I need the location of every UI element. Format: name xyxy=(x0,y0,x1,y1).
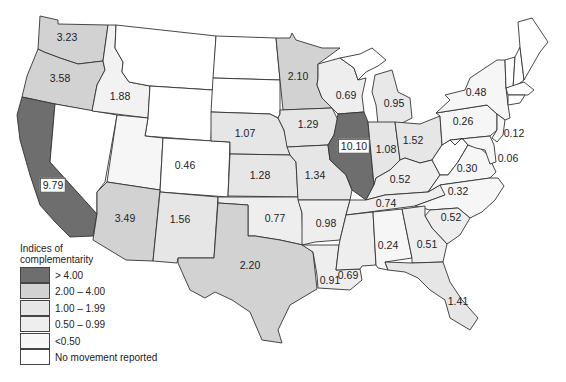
label-oklahoma: 0.77 xyxy=(265,213,285,224)
label-wisconsin: 0.69 xyxy=(336,90,356,101)
state-maine xyxy=(518,18,548,80)
label-michigan: 0.95 xyxy=(384,98,404,109)
label-new-jersey: 0.12 xyxy=(504,128,524,139)
legend-label-none: No movement reported xyxy=(55,352,157,363)
legend-swatch-none xyxy=(20,349,50,365)
label-arkansas: 0.98 xyxy=(316,218,336,229)
label-kansas: 1.28 xyxy=(250,170,270,181)
legend-swatch-gt4 xyxy=(20,267,50,283)
legend-swatch-05-1 xyxy=(20,316,50,332)
label-delaware-maryland: 0.06 xyxy=(498,153,518,164)
label-idaho: 1.88 xyxy=(110,91,130,102)
state-montana xyxy=(115,25,216,90)
legend-row-lt05: <0.50 xyxy=(20,333,157,350)
label-mississippi: 0.69 xyxy=(338,270,358,281)
label-texas: 2.20 xyxy=(240,260,260,271)
label-ohio: 1.52 xyxy=(403,135,423,146)
label-south-carolina: 0.52 xyxy=(441,212,461,223)
label-indiana: 1.08 xyxy=(376,144,396,155)
label-washington: 3.23 xyxy=(57,32,77,43)
legend-label-05-1: 0.50 – 0.99 xyxy=(55,319,105,330)
label-missouri: 1.34 xyxy=(305,170,325,181)
legend-label-1-2: 1.00 – 1.99 xyxy=(55,303,105,314)
label-illinois: 10.10 xyxy=(338,139,370,154)
label-kentucky: 0.52 xyxy=(390,174,410,185)
label-arizona: 3.49 xyxy=(115,213,135,224)
label-iowa: 1.29 xyxy=(298,119,318,130)
state-north-dakota xyxy=(213,36,280,80)
state-connecticut xyxy=(508,95,525,105)
label-california: 9.79 xyxy=(40,178,66,193)
legend-label-lt05: <0.50 xyxy=(55,336,80,347)
legend-title-line1: Indices of xyxy=(20,243,157,254)
label-utah: 0.46 xyxy=(175,160,195,171)
legend-row-2-4: 2.00 – 4.00 xyxy=(20,284,157,301)
legend-swatch-2-4 xyxy=(20,283,50,299)
legend-title-line2: complementarity xyxy=(20,254,157,265)
label-alabama: 0.24 xyxy=(378,240,398,251)
label-new-mexico: 1.56 xyxy=(170,214,190,225)
label-minnesota: 2.10 xyxy=(288,71,308,82)
legend-title: Indices of complementarity xyxy=(20,243,157,265)
legend-row-none: No movement reported xyxy=(20,350,157,367)
label-tennessee: 0.74 xyxy=(376,198,396,209)
legend: Indices of complementarity > 4.00 2.00 –… xyxy=(20,243,157,366)
legend-swatch-1-2 xyxy=(20,300,50,316)
legend-row-1-2: 1.00 – 1.99 xyxy=(20,300,157,317)
legend-swatch-lt05 xyxy=(20,333,50,349)
label-nebraska: 1.07 xyxy=(235,128,255,139)
label-new-york: 0.48 xyxy=(466,87,486,98)
legend-label-2-4: 2.00 – 4.00 xyxy=(55,286,105,297)
state-wyoming xyxy=(145,86,213,141)
legend-row-gt4: > 4.00 xyxy=(20,267,157,284)
label-virginia: 0.30 xyxy=(457,163,477,174)
label-north-carolina: 0.32 xyxy=(448,186,468,197)
label-florida: 1.41 xyxy=(448,296,468,307)
legend-label-gt4: > 4.00 xyxy=(55,270,83,281)
label-pennsylvania: 0.26 xyxy=(453,116,473,127)
state-new-mexico xyxy=(153,192,218,263)
label-georgia: 0.51 xyxy=(417,239,437,250)
label-oregon: 3.58 xyxy=(50,73,70,84)
legend-row-05-1: 0.50 – 0.99 xyxy=(20,317,157,334)
